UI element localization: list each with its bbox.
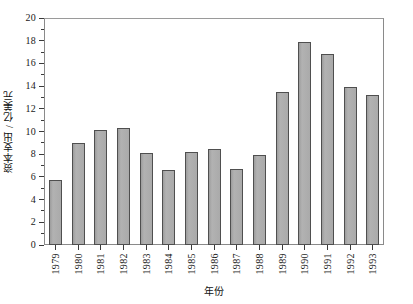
y-tick-label: 14 — [26, 78, 36, 94]
bar — [366, 95, 379, 245]
bar-slot — [180, 18, 203, 245]
x-tick-label: 1980 — [73, 253, 84, 275]
bar-slot — [135, 18, 158, 245]
bar-slot — [89, 18, 112, 245]
x-tick-label: 1993 — [367, 253, 378, 275]
x-tick-mark — [259, 245, 260, 250]
bar — [208, 149, 221, 245]
bar — [344, 87, 357, 245]
x-tick-label: 1986 — [209, 253, 220, 275]
bar-slot — [112, 18, 135, 245]
x-axis-title: 年份 — [44, 283, 384, 298]
x-tick-mark — [236, 245, 237, 250]
bar — [321, 54, 334, 245]
bar — [94, 130, 107, 245]
x-tick-label: 1989 — [277, 253, 288, 275]
y-axis: 02468101214161820 — [0, 18, 44, 245]
x-tick-mark — [372, 245, 373, 250]
bar-slot — [361, 18, 384, 245]
bar-slot — [225, 18, 248, 245]
x-tick-label: 1981 — [95, 253, 106, 275]
y-tick-label: 16 — [26, 55, 36, 71]
x-tick-mark — [191, 245, 192, 250]
bar — [253, 155, 266, 245]
x-tick-label: 1991 — [322, 253, 333, 275]
x-tick-mark — [304, 245, 305, 250]
bar — [298, 42, 311, 245]
y-tick-label: 12 — [26, 101, 36, 117]
x-tick-mark — [350, 245, 351, 250]
bar — [276, 92, 289, 245]
bar — [162, 170, 175, 245]
y-tick-label: 0 — [31, 237, 36, 253]
bar-slot — [67, 18, 90, 245]
x-tick-label: 1990 — [299, 253, 310, 275]
bar-slot — [248, 18, 271, 245]
x-tick-label: 1985 — [186, 253, 197, 275]
bar-slot — [44, 18, 67, 245]
bar-slot — [293, 18, 316, 245]
bar-slot — [157, 18, 180, 245]
bar — [230, 169, 243, 245]
bar-slot — [339, 18, 362, 245]
bar — [185, 152, 198, 245]
bar-slot — [271, 18, 294, 245]
x-tick-label: 1987 — [231, 253, 242, 275]
bar — [49, 180, 62, 245]
x-tick-label: 1983 — [141, 253, 152, 275]
x-tick-label: 1979 — [50, 253, 61, 275]
y-tick-label: 2 — [31, 214, 36, 230]
x-tick-mark — [78, 245, 79, 250]
bar — [72, 143, 85, 245]
x-tick-label: 1984 — [163, 253, 174, 275]
x-tick-mark — [100, 245, 101, 250]
x-tick-mark — [327, 245, 328, 250]
bar-slot — [203, 18, 226, 245]
y-tick-label: 20 — [26, 10, 36, 26]
x-tick-mark — [168, 245, 169, 250]
bar-chart-figure: 资本支出 / 亿美元 02468101214161820 19791980198… — [0, 0, 413, 304]
y-tick-label: 10 — [26, 124, 36, 140]
y-tick-label: 6 — [31, 169, 36, 185]
x-tick-mark — [146, 245, 147, 250]
x-tick-label: 1992 — [345, 253, 356, 275]
x-tick-mark — [55, 245, 56, 250]
bar — [140, 153, 153, 245]
x-tick-label: 1982 — [118, 253, 129, 275]
y-tick-label: 18 — [26, 33, 36, 49]
bar-slot — [316, 18, 339, 245]
y-tick-label: 8 — [31, 146, 36, 162]
x-tick-mark — [214, 245, 215, 250]
x-tick-label: 1988 — [254, 253, 265, 275]
x-tick-mark — [123, 245, 124, 250]
bars-container — [44, 18, 384, 245]
y-tick-label: 4 — [31, 192, 36, 208]
bar — [117, 128, 130, 245]
x-tick-mark — [282, 245, 283, 250]
